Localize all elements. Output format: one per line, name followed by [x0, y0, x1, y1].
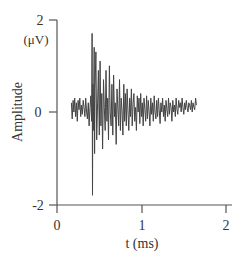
y-ticks — [49, 20, 57, 205]
x-tick-label-2: 2 — [223, 218, 230, 233]
x-tick-label-1: 1 — [139, 218, 146, 233]
chart-svg: 2 (μV) 0 -2 Amplitude 0 1 2 t (ms) — [0, 0, 247, 261]
x-axis-title: t (ms) — [125, 236, 158, 252]
x-ticks — [57, 205, 226, 213]
y-axis-title: Amplitude — [10, 82, 25, 142]
x-tick-label-0: 0 — [54, 218, 61, 233]
y-tick-label-2: 2 — [37, 13, 44, 28]
y-unit-label: (μV) — [23, 32, 48, 47]
y-tick-label-minus2: -2 — [32, 198, 44, 213]
y-tick-label-0: 0 — [35, 105, 42, 120]
signal-trace — [71, 33, 196, 195]
chart: 2 (μV) 0 -2 Amplitude 0 1 2 t (ms) — [0, 0, 247, 261]
